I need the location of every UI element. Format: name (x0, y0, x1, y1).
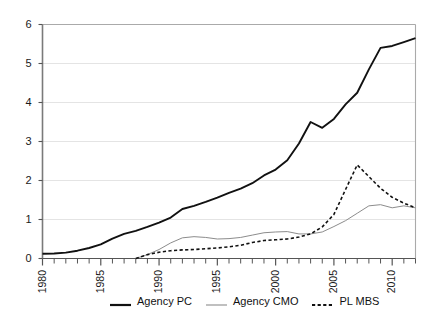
legend-item: PL MBS (312, 295, 379, 307)
legend-item: Agency CMO (206, 295, 298, 307)
y-gridlines (43, 25, 416, 220)
x-tick-label: 1990 (153, 270, 164, 293)
x-tick-label: 2010 (386, 270, 397, 293)
y-tick-label: 6 (14, 19, 32, 30)
x-tick-label: 1980 (37, 270, 48, 293)
chart-figure: 0123456 1980198519901995200020052010 Age… (0, 0, 437, 324)
legend-line-swatch (206, 296, 227, 306)
y-tick-label: 2 (14, 175, 32, 186)
chart-legend: Agency PCAgency CMOPL MBS (110, 295, 393, 307)
y-tick-label: 0 (14, 253, 32, 264)
legend-item: Agency PC (110, 295, 192, 307)
x-tick-label: 1985 (95, 270, 106, 293)
y-tick-label: 4 (14, 97, 32, 108)
legend-label: PL MBS (339, 295, 379, 307)
x-tick-label: 2000 (270, 270, 281, 293)
y-tick-label: 3 (14, 136, 32, 147)
y-tick-label: 1 (14, 214, 32, 225)
data-series-group (43, 38, 416, 258)
x-tick-label: 2005 (328, 270, 339, 293)
legend-line-swatch (312, 296, 333, 306)
series-line-agency-pc (43, 38, 416, 254)
legend-label: Agency CMO (233, 295, 298, 307)
y-tick-label: 5 (14, 58, 32, 69)
legend-label: Agency PC (137, 295, 192, 307)
legend-line-swatch (110, 296, 131, 306)
x-tick-label: 1995 (211, 270, 222, 293)
x-ticks (43, 259, 416, 266)
